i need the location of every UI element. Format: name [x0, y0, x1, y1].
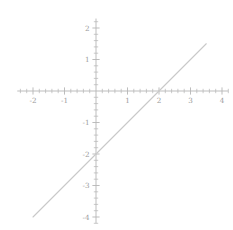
y-tick-label: -1 — [82, 118, 89, 127]
line-plot-figure: -2-1123421-1-2-3-4 — [0, 0, 233, 230]
x-axis-major-ticks: -2-11234 — [29, 87, 224, 105]
x-tick-label: 1 — [125, 96, 130, 105]
x-tick-label: 2 — [157, 96, 162, 105]
y-tick-label: -2 — [82, 150, 89, 159]
x-tick-label: 4 — [220, 96, 225, 105]
y-tick-label: -3 — [82, 181, 89, 190]
y-tick-label: 2 — [85, 24, 90, 33]
y-tick-label: 1 — [85, 55, 90, 64]
x-tick-label: -2 — [29, 96, 36, 105]
data-line-series — [33, 44, 206, 217]
x-tick-label: 3 — [188, 96, 193, 105]
y-tick-label: -4 — [82, 213, 89, 222]
plot-canvas: -2-1123421-1-2-3-4 — [0, 0, 233, 230]
x-tick-label: -1 — [61, 96, 68, 105]
